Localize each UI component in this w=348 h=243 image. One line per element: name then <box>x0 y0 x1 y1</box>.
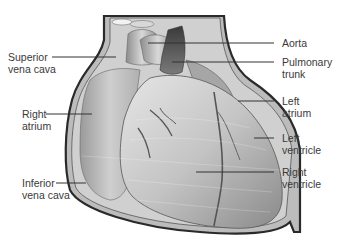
label-left-ventricle: Left ventricle <box>282 132 321 156</box>
heart-diagram: Superior vena cava Right atrium Inferior… <box>0 0 348 243</box>
label-aorta: Aorta <box>282 37 307 49</box>
label-superior-vena-cava: Superior vena cava <box>8 51 56 75</box>
label-inferior-vena-cava: Inferior vena cava <box>22 177 70 201</box>
label-right-atrium: Right atrium <box>22 108 51 132</box>
label-pulmonary-trunk: Pulmonary trunk <box>282 56 332 80</box>
label-left-atrium: Left atrium <box>282 95 311 119</box>
label-right-ventricle: Right ventricle <box>282 166 321 190</box>
